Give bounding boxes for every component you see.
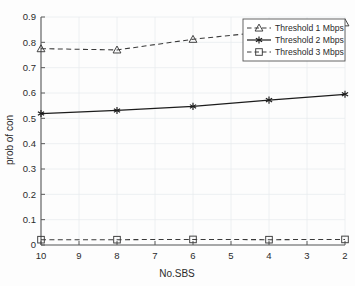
probability-of-connection-line-chart: 1098765432 00.10.20.30.40.50.60.70.80.9 … — [0, 0, 355, 286]
x-axis-title: No.SBS — [159, 268, 195, 279]
y-tick-label: 0.1 — [23, 214, 36, 225]
y-tick-label: 0.5 — [23, 113, 36, 124]
legend-label: Threshold 3 Mbps — [275, 47, 344, 57]
x-tick-label: 2 — [342, 250, 347, 261]
x-tick-label: 3 — [304, 250, 309, 261]
x-tick-label: 9 — [76, 250, 81, 261]
y-tick-label: 0.3 — [23, 163, 36, 174]
legend-label: Threshold 1 Mbps — [275, 23, 344, 33]
y-tick-label: 0.7 — [23, 62, 36, 73]
y-tick-label: 0.6 — [23, 87, 36, 98]
x-tick-label: 7 — [152, 250, 157, 261]
y-tick-label: 0.2 — [23, 189, 36, 200]
x-tick-label: 8 — [114, 250, 119, 261]
x-tick-label: 10 — [36, 250, 47, 261]
y-axis-title: prob of con — [4, 115, 15, 165]
x-tick-label: 4 — [266, 250, 271, 261]
chart-legend[interactable]: Threshold 1 MbpsThreshold 2 MbpsThreshol… — [243, 19, 345, 61]
legend-label: Threshold 2 Mbps — [275, 35, 344, 45]
chart-figure: 1098765432 00.10.20.30.40.50.60.70.80.9 … — [0, 0, 355, 286]
y-tick-label: 0 — [31, 239, 36, 250]
y-tick-label: 0.8 — [23, 37, 36, 48]
y-tick-label: 0.4 — [23, 138, 36, 149]
x-tick-label: 6 — [190, 250, 195, 261]
y-tick-label: 0.9 — [23, 11, 36, 22]
x-tick-label: 5 — [228, 250, 233, 261]
